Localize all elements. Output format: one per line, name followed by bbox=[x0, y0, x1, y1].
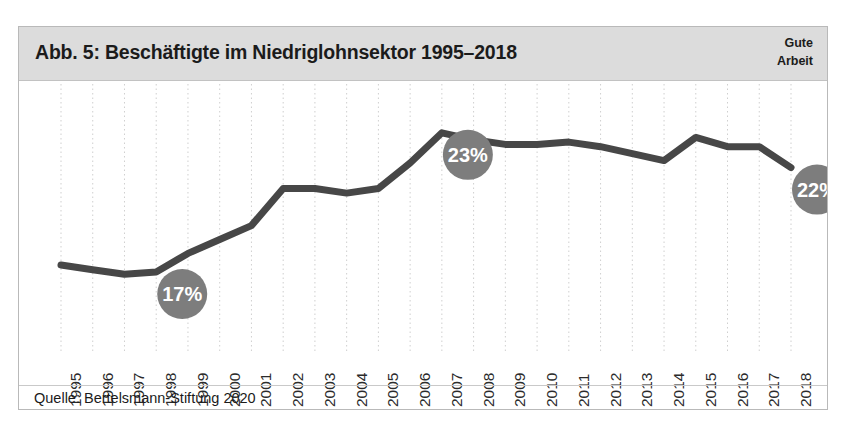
value-badge-2007: 23% bbox=[443, 130, 493, 180]
x-tick-2010: 2010 bbox=[544, 349, 560, 407]
plot-area: 17%23%22% bbox=[19, 82, 827, 352]
footer-divider bbox=[19, 385, 827, 386]
x-tick-2006: 2006 bbox=[417, 349, 433, 407]
brand-line-2: Arbeit bbox=[739, 52, 813, 70]
brand-line-1: Gute bbox=[739, 34, 813, 52]
figure-container: Abb. 5: Beschäftigte im Niedriglohnsekto… bbox=[18, 26, 828, 410]
x-tick-2008: 2008 bbox=[481, 349, 497, 407]
x-tick-2004: 2004 bbox=[354, 349, 370, 407]
line-chart: 17%23%22% bbox=[19, 82, 827, 352]
badge-label: 23% bbox=[448, 144, 488, 166]
value-badges-group: 17%23%22% bbox=[157, 130, 827, 319]
figure-header: Abb. 5: Beschäftigte im Niedriglohnsekto… bbox=[19, 27, 827, 81]
x-tick-2007: 2007 bbox=[449, 349, 465, 407]
badge-label: 17% bbox=[162, 283, 202, 305]
x-tick-2002: 2002 bbox=[290, 349, 306, 407]
x-tick-2009: 2009 bbox=[512, 349, 528, 407]
x-tick-2018: 2018 bbox=[798, 349, 814, 407]
source-caption: Quelle: Bertelsmann-Stiftung 2020 bbox=[34, 390, 256, 406]
brand-logo: Gute Arbeit bbox=[739, 34, 813, 70]
x-tick-2005: 2005 bbox=[385, 349, 401, 407]
x-tick-2015: 2015 bbox=[703, 349, 719, 407]
x-tick-2016: 2016 bbox=[735, 349, 751, 407]
value-badge-1998: 17% bbox=[157, 269, 207, 319]
x-tick-2017: 2017 bbox=[766, 349, 782, 407]
x-tick-2013: 2013 bbox=[639, 349, 655, 407]
page-title: Abb. 5: Beschäftigte im Niedriglohnsekto… bbox=[35, 41, 517, 64]
value-badge-2018: 22% bbox=[792, 165, 827, 215]
x-tick-2011: 2011 bbox=[576, 349, 592, 407]
x-tick-2014: 2014 bbox=[671, 349, 687, 407]
data-line-series bbox=[61, 133, 791, 274]
x-tick-2012: 2012 bbox=[608, 349, 624, 407]
x-tick-2001: 2001 bbox=[258, 349, 274, 407]
badge-label: 22% bbox=[797, 179, 827, 201]
x-tick-2003: 2003 bbox=[322, 349, 338, 407]
